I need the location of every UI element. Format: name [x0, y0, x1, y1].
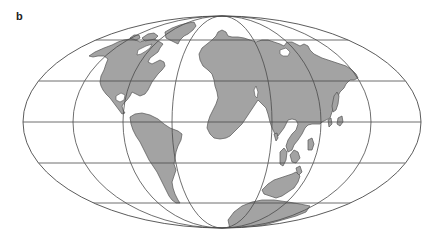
- southeast-asia-islands-3: [290, 150, 300, 163]
- east-islands-2: [337, 116, 343, 126]
- world-map: [0, 0, 433, 241]
- africa-eurasia: [199, 30, 358, 152]
- greenland: [165, 22, 196, 44]
- south-america: [130, 113, 182, 203]
- north-america: [89, 38, 165, 114]
- southeast-asia-islands-4: [308, 138, 314, 150]
- southeast-asia-islands: [274, 133, 278, 141]
- landmasses: [89, 22, 358, 229]
- east-islands-3: [328, 118, 332, 127]
